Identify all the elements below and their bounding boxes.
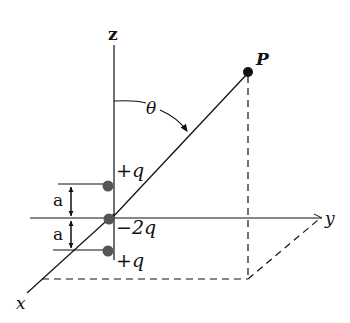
- charge-origin-label: −2q: [116, 216, 156, 238]
- z-axis-label: z: [108, 24, 118, 44]
- charge-top-label: +q: [116, 159, 144, 181]
- y-axis-label: y: [324, 208, 335, 228]
- spacing-label-upper: a: [53, 190, 63, 210]
- point-p: [243, 67, 253, 77]
- projection-y: [248, 220, 318, 279]
- spacing-label-lower: a: [53, 224, 63, 244]
- charge-origin: [104, 214, 115, 225]
- radius-line: [112, 73, 248, 218]
- quadrupole-diagram: z y x P θ a a +q −2q +q: [0, 0, 350, 323]
- x-axis-label: x: [16, 293, 26, 313]
- theta-arc: [114, 101, 146, 103]
- theta-label: θ: [146, 98, 156, 118]
- charge-bottom-label: +q: [116, 249, 144, 271]
- charge-top: [103, 181, 114, 192]
- charge-bottom: [103, 246, 114, 257]
- point-p-label: P: [255, 49, 270, 69]
